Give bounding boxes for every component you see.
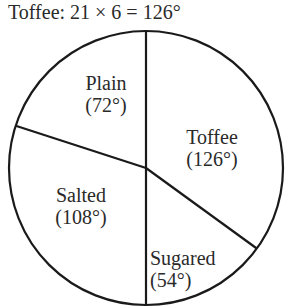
slice-name: Salted <box>44 184 118 206</box>
slice-name: Toffee <box>176 126 248 148</box>
divider-left <box>16 126 146 168</box>
slice-label-sugared: Sugared (54°) <box>150 247 240 291</box>
divider-lower-right <box>146 168 257 249</box>
slice-label-salted: Salted (108°) <box>44 184 118 228</box>
slice-name: Plain <box>72 72 140 94</box>
slice-label-toffee: Toffee (126°) <box>176 126 248 170</box>
slice-angle: (72°) <box>72 94 140 116</box>
slice-name: Sugared <box>150 247 240 269</box>
slice-angle: (108°) <box>44 206 118 228</box>
pie-chart <box>0 0 293 308</box>
slice-label-plain: Plain (72°) <box>72 72 140 116</box>
slice-angle: (126°) <box>176 148 248 170</box>
slice-angle: (54°) <box>150 269 240 291</box>
